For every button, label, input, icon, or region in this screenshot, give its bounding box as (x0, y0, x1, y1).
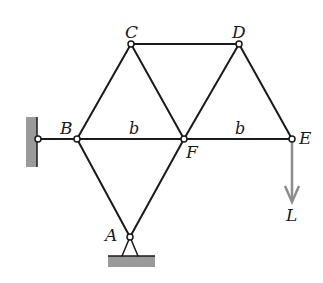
joint-wall-pin (35, 136, 41, 142)
label-node-D: D (231, 22, 246, 42)
joint-A (127, 234, 133, 240)
member-A-F (130, 139, 184, 237)
joint-E (289, 136, 295, 142)
label-dimension-BF: b (129, 119, 139, 138)
label-node-C: C (125, 22, 138, 42)
load-arrow (285, 142, 299, 202)
label-node-B: B (59, 118, 73, 138)
member-D-E (239, 44, 292, 139)
joint-B (74, 136, 80, 142)
wall-support-hatch (26, 117, 37, 167)
truss-diagram: C D B F E A b b L (0, 0, 323, 283)
ground-support-hatch (108, 256, 155, 267)
member-B-C (77, 44, 131, 139)
label-node-E: E (298, 128, 312, 148)
label-node-A: A (103, 225, 117, 245)
member-A-B (77, 139, 130, 237)
member-D-F (184, 44, 239, 139)
truss-joints (35, 41, 295, 240)
label-load-L: L (285, 205, 297, 225)
label-dimension-FE: b (235, 119, 245, 138)
label-node-F: F (185, 142, 199, 162)
